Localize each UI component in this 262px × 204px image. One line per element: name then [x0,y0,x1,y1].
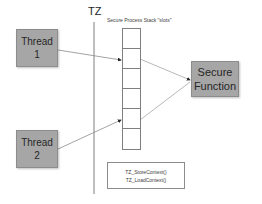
secure-process-stack [122,28,141,150]
stack-slot [123,89,140,109]
stack-slot [123,49,140,69]
thread-2-number: 2 [34,150,40,161]
stack-title: Secure Process Stack "slots" [107,17,171,23]
stack-slot [123,69,140,89]
secure-function-box: SecureFunction [191,61,239,97]
arrow-stack-to-function-2 [140,82,190,120]
secure-function-line1: Secure [198,66,233,78]
thread-1-box: Thread1 [16,29,58,67]
load-context-label: TZ_LoadContext() [126,176,167,184]
thread-1-number: 1 [34,49,40,60]
thread-1-label: Thread [21,36,53,47]
stack-slot [123,29,140,49]
arrow-thread2-to-stack [58,120,121,149]
arrow-thread1-to-stack [58,50,121,60]
tz-context-box: TZ_StoreContext() TZ_LoadContext() [107,162,185,189]
secure-function-line2: Function [194,80,236,92]
stack-slot [123,129,140,149]
stack-slot [123,109,140,129]
arrow-stack-to-function-1 [140,59,190,80]
thread-2-box: Thread2 [16,130,58,168]
store-context-label: TZ_StoreContext() [125,168,166,176]
thread-2-label: Thread [21,137,53,148]
tz-label: TZ [88,5,101,17]
